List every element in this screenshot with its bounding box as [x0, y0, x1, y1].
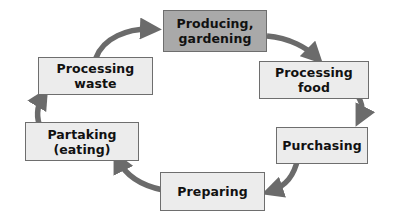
- arrow-preparing-to-partaking: [118, 160, 163, 190]
- arrow-waste-to-producing: [96, 29, 152, 58]
- node-label: Processing food: [275, 65, 353, 95]
- node-label: Processing waste: [57, 61, 135, 91]
- node-processing-food: Processing food: [259, 61, 369, 99]
- node-preparing: Preparing: [160, 172, 265, 211]
- node-label: Producing, gardening: [176, 16, 253, 46]
- cycle-diagram: Producing, gardening Processing food Pur…: [0, 0, 399, 223]
- node-producing-gardening: Producing, gardening: [163, 10, 267, 52]
- node-label: Purchasing: [282, 138, 362, 153]
- node-label: Partaking (eating): [47, 127, 116, 157]
- arrow-producing-to-processing-food: [267, 36, 316, 57]
- node-partaking-eating: Partaking (eating): [25, 122, 139, 161]
- node-purchasing: Purchasing: [276, 127, 368, 164]
- node-processing-waste: Processing waste: [38, 57, 153, 95]
- node-label: Preparing: [177, 184, 247, 199]
